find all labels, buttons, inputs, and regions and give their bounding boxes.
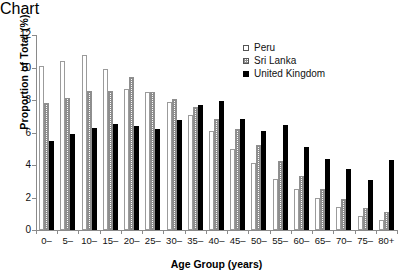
x-axis-tick bbox=[333, 230, 334, 234]
bar-united-kingdom bbox=[325, 159, 330, 231]
y-axis-tick bbox=[32, 133, 37, 134]
bar-group bbox=[121, 35, 142, 230]
bar-group bbox=[376, 35, 397, 230]
x-axis-tick bbox=[185, 230, 186, 234]
legend-item-sri-lanka: Sri Lanka bbox=[243, 55, 325, 66]
bar-group bbox=[100, 35, 121, 230]
x-axis-tick-label: 65– bbox=[312, 234, 333, 250]
x-axis-tick bbox=[57, 230, 58, 234]
x-axis-tick bbox=[142, 230, 143, 234]
y-axis-tick bbox=[32, 100, 37, 101]
bar-group bbox=[78, 35, 99, 230]
x-axis-tick-label: 30– bbox=[163, 234, 184, 250]
bar-group bbox=[185, 35, 206, 230]
bar-united-kingdom bbox=[70, 134, 75, 230]
x-axis-tick-label: 5– bbox=[57, 234, 78, 250]
x-axis-tick-label: 40– bbox=[206, 234, 227, 250]
bar-group bbox=[36, 35, 57, 230]
x-axis-tick-label: 0– bbox=[36, 234, 57, 250]
x-axis-tick-label: 45– bbox=[227, 234, 248, 250]
x-axis-line bbox=[36, 230, 397, 231]
bar-united-kingdom bbox=[283, 125, 288, 230]
x-axis-tick-label: 35– bbox=[185, 234, 206, 250]
x-axis-tick-label: 10– bbox=[78, 234, 99, 250]
bar-united-kingdom bbox=[113, 124, 118, 230]
y-axis-tick bbox=[32, 35, 37, 36]
x-axis-tick-label: 25– bbox=[142, 234, 163, 250]
x-axis-tick bbox=[376, 230, 377, 234]
x-axis-tick bbox=[121, 230, 122, 234]
bar-group bbox=[142, 35, 163, 230]
bar-group bbox=[163, 35, 184, 230]
bar-group bbox=[57, 35, 78, 230]
bar-united-kingdom bbox=[389, 160, 394, 230]
x-axis-tick bbox=[78, 230, 79, 234]
x-axis-tick bbox=[100, 230, 101, 234]
bar-united-kingdom bbox=[49, 141, 54, 230]
bar-united-kingdom bbox=[368, 180, 373, 230]
filled-square-icon bbox=[243, 71, 249, 77]
bar-united-kingdom bbox=[240, 119, 245, 230]
x-axis-labels: 0–5–10–15–20–25–30–35–40–45–50–55–60–65–… bbox=[36, 234, 397, 250]
y-axis-tick bbox=[32, 165, 37, 166]
bar-united-kingdom bbox=[304, 147, 309, 230]
x-axis-tick bbox=[206, 230, 207, 234]
x-axis-tick bbox=[36, 230, 37, 234]
y-axis-tick bbox=[32, 198, 37, 199]
hatched-square-icon bbox=[243, 58, 249, 64]
bar-united-kingdom bbox=[155, 129, 160, 230]
y-axis-title: Proportion of Total (%) bbox=[18, 0, 30, 152]
x-axis-tick-label: 75– bbox=[355, 234, 376, 250]
legend-item-peru: Peru bbox=[243, 42, 325, 53]
bar-united-kingdom bbox=[219, 101, 224, 230]
bar-group bbox=[355, 35, 376, 230]
y-axis-tick-label: 0 bbox=[5, 225, 31, 235]
x-axis-tick bbox=[291, 230, 292, 234]
x-axis-tick-label: 70– bbox=[333, 234, 354, 250]
bar-united-kingdom bbox=[177, 120, 182, 230]
legend-label: Sri Lanka bbox=[254, 55, 296, 66]
bar-united-kingdom bbox=[92, 128, 97, 230]
legend-label: Peru bbox=[254, 42, 275, 53]
x-axis-tick bbox=[227, 230, 228, 234]
bar-group bbox=[333, 35, 354, 230]
x-axis-tick-label: 80+ bbox=[376, 234, 397, 250]
bar-united-kingdom bbox=[198, 105, 203, 230]
x-axis-tick bbox=[355, 230, 356, 234]
x-axis-tick-label: 50– bbox=[248, 234, 269, 250]
bar-groups bbox=[36, 35, 397, 230]
bar-united-kingdom bbox=[261, 131, 266, 230]
y-axis-tick-label: 2 bbox=[5, 193, 31, 203]
legend-label: United Kingdom bbox=[254, 68, 325, 79]
x-axis-title: Age Group (years) bbox=[36, 258, 397, 270]
open-square-icon bbox=[243, 45, 249, 51]
x-axis-tick-label: 55– bbox=[270, 234, 291, 250]
x-axis-tick bbox=[312, 230, 313, 234]
x-axis-tick bbox=[163, 230, 164, 234]
x-axis-tick bbox=[270, 230, 271, 234]
chart-legend: PeruSri LankaUnited Kingdom bbox=[243, 42, 325, 79]
bar-united-kingdom bbox=[346, 169, 351, 230]
x-axis-tick bbox=[248, 230, 249, 234]
x-axis-tick-label: 20– bbox=[121, 234, 142, 250]
x-axis-tick-label: 60– bbox=[291, 234, 312, 250]
legend-item-united-kingdom: United Kingdom bbox=[243, 68, 325, 79]
x-axis-tick-label: 15– bbox=[100, 234, 121, 250]
bar-group bbox=[206, 35, 227, 230]
bar-chart-figure: 024681012 Proportion of Total (%) 0–5–10… bbox=[0, 18, 405, 274]
x-axis-tick bbox=[397, 230, 398, 234]
bar-united-kingdom bbox=[134, 126, 139, 230]
y-axis-tick bbox=[32, 68, 37, 69]
y-axis-tick-label: 4 bbox=[5, 160, 31, 170]
